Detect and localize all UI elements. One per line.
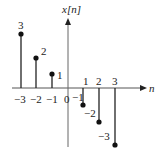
- stem-n-2: −2: [84, 88, 102, 125]
- stem-n-minus-2: 2: [33, 45, 46, 88]
- svg-text:−1: −1: [72, 91, 84, 103]
- y-axis-label: x[n]: [61, 3, 81, 15]
- svg-text:2: 2: [41, 45, 47, 57]
- svg-text:1: 1: [57, 69, 63, 81]
- stem-n-minus-3: 3: [18, 19, 24, 88]
- n-axis-arrow-icon: [140, 85, 147, 91]
- discrete-signal-plot: x[n] n 3 2 1 −1 −2 −3 −3 −2 −1 0 1 2 3: [0, 0, 160, 159]
- tick-label-n-1: 1: [83, 75, 89, 87]
- stem-n-3: −3: [98, 88, 118, 148]
- tick-label-n-2: 2: [96, 75, 102, 87]
- stem-n-1: −1: [72, 88, 86, 108]
- svg-text:−2: −2: [84, 107, 96, 119]
- tick-label-n-minus-2: −2: [30, 93, 42, 105]
- y-axis-arrow-icon: [65, 18, 71, 25]
- tick-label-n-0: 0: [64, 93, 70, 105]
- tick-label-n-3: 3: [112, 75, 118, 87]
- x-axis-label: n: [149, 82, 155, 94]
- svg-text:3: 3: [18, 19, 24, 31]
- tick-label-n-minus-3: −3: [14, 93, 26, 105]
- svg-text:−3: −3: [98, 130, 110, 142]
- tick-label-n-minus-1: −1: [46, 93, 58, 105]
- stem-n-minus-1: 1: [49, 69, 62, 88]
